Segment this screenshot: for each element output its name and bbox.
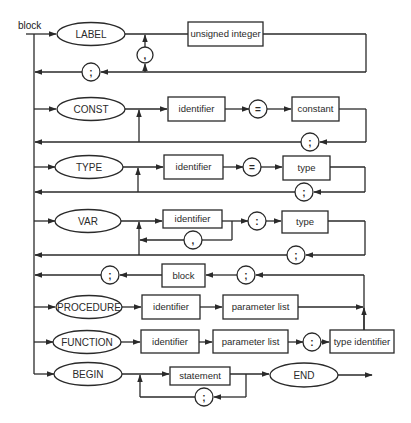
svg-text:unsigned integer: unsigned integer <box>190 28 260 39</box>
svg-text:identifier: identifier <box>175 213 211 224</box>
svg-text:type: type <box>298 162 316 173</box>
main-spine <box>26 34 34 374</box>
var-section: VAR identifier , : type ; <box>34 210 365 265</box>
svg-text:;: ; <box>308 137 311 148</box>
const-section: CONST identifier = constant ; <box>34 97 366 151</box>
svg-text:constant: constant <box>298 103 334 114</box>
svg-text:BEGIN: BEGIN <box>72 369 103 380</box>
block-syntax-diagram: block LABEL unsigned integer , ; CONST i… <box>0 0 411 423</box>
svg-text:END: END <box>293 370 314 381</box>
svg-text:;: ; <box>294 250 297 261</box>
svg-text:;: ; <box>108 270 111 281</box>
svg-text:block: block <box>172 270 194 281</box>
type-section: TYPE identifier = type ; <box>34 155 365 201</box>
svg-text:FUNCTION: FUNCTION <box>61 337 113 348</box>
svg-text:LABEL: LABEL <box>75 29 107 40</box>
svg-text:parameter list: parameter list <box>232 301 290 312</box>
svg-text:type identifier: type identifier <box>334 336 391 347</box>
svg-text:identifier: identifier <box>152 336 188 347</box>
svg-text:identifier: identifier <box>179 103 215 114</box>
svg-text:,: , <box>144 50 147 61</box>
svg-text:PROCEDURE: PROCEDURE <box>57 302 121 313</box>
svg-text::: : <box>255 216 258 227</box>
svg-text:parameter list: parameter list <box>222 336 280 347</box>
svg-text:identifier: identifier <box>153 301 189 312</box>
svg-text:;: ; <box>302 187 305 198</box>
svg-text:;: ; <box>202 392 205 403</box>
begin-section: BEGIN statement ; END <box>34 363 372 407</box>
procedure-section: PROCEDURE identifier parameter list <box>34 295 363 319</box>
svg-text:statement: statement <box>179 370 221 381</box>
svg-text:TYPE: TYPE <box>76 162 102 173</box>
svg-text:=: = <box>249 162 255 173</box>
svg-text:;: ; <box>244 270 247 281</box>
svg-text:type: type <box>296 216 314 227</box>
svg-text:CONST: CONST <box>74 104 109 115</box>
svg-text:VAR: VAR <box>78 216 98 227</box>
svg-text:;: ; <box>89 67 92 78</box>
svg-text:identifier: identifier <box>176 161 212 172</box>
diagram-title: block <box>18 20 42 31</box>
svg-text:,: , <box>192 235 195 246</box>
svg-text:=: = <box>255 104 261 115</box>
label-section: LABEL unsigned integer , ; <box>34 22 366 81</box>
svg-text::: : <box>310 337 313 348</box>
